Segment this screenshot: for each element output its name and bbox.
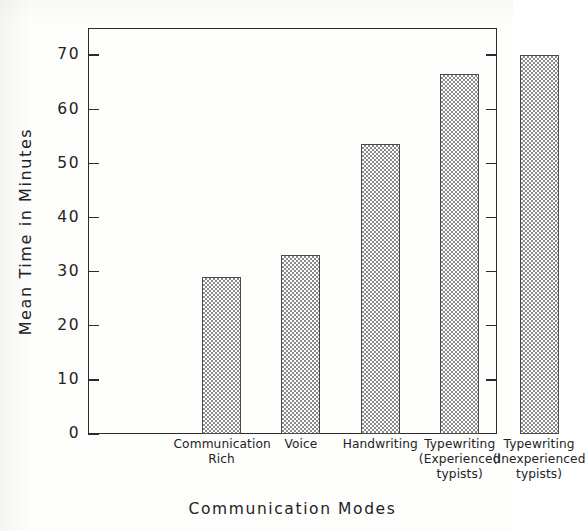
y-tick-mark: 70 [88, 54, 99, 55]
bar [281, 255, 320, 434]
y-tick-label: 40 [57, 208, 80, 226]
y-tick-mark-right [486, 379, 497, 380]
y-tick-mark-right [486, 325, 497, 326]
y-tick-mark-right [486, 217, 497, 218]
y-tick-mark-right [486, 271, 497, 272]
plot-area: 010203040506070 [88, 28, 497, 434]
y-tick-label: 10 [57, 370, 80, 388]
y-tick-mark: 10 [88, 379, 99, 380]
bar [361, 144, 400, 434]
y-axis-title: Mean Time in Minutes [14, 28, 38, 434]
bar [520, 55, 559, 434]
y-tick-mark: 50 [88, 163, 99, 164]
y-tick-mark-right [486, 54, 497, 55]
x-category-label-line: typists) [491, 467, 587, 482]
x-category-label-line: Rich [174, 452, 270, 467]
x-category-label-line: (Inexperienced [491, 452, 587, 467]
x-category-label: Typewriting(Inexperiencedtypists) [491, 437, 587, 482]
y-tick-label: 50 [57, 154, 80, 172]
bar [440, 74, 479, 434]
y-tick-label: 60 [57, 100, 80, 118]
y-tick-label: 20 [57, 316, 80, 334]
y-tick-mark-right [486, 109, 497, 110]
y-tick-mark: 60 [88, 109, 99, 110]
y-tick-mark: 30 [88, 271, 99, 272]
y-tick-mark: 0 [88, 433, 99, 434]
y-tick-mark: 40 [88, 217, 99, 218]
y-tick-label: 30 [57, 262, 80, 280]
x-category-label-line: Typewriting [491, 437, 587, 452]
y-axis-title-text: Mean Time in Minutes [17, 127, 36, 335]
bar [202, 277, 241, 434]
y-tick-label: 70 [57, 45, 80, 63]
y-tick-mark-right [486, 163, 497, 164]
y-tick-mark: 20 [88, 325, 99, 326]
y-tick-label: 0 [69, 424, 80, 442]
x-axis-title: Communication Modes [88, 500, 497, 518]
